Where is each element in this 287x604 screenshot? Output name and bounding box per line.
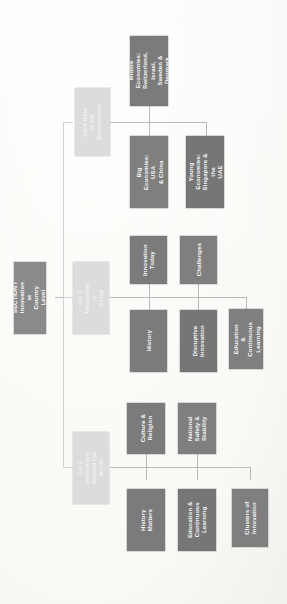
- node-disruptive-innovation[interactable]: Disruptive Innovation: [180, 310, 217, 372]
- node-history-matters[interactable]: History Matters: [127, 489, 165, 551]
- connector-spine-to-ch3: [63, 297, 73, 298]
- node-clusters-of-innovation[interactable]: Clusters of Innovation: [232, 489, 268, 547]
- connector-ch3-education: [246, 297, 247, 309]
- node-disruptive-innovation-label: Disruptive Innovation: [191, 323, 205, 360]
- node-education-continuous-learning-ch3[interactable]: Education & Continuous Learning: [229, 309, 263, 369]
- node-innovation-today-label: Innovation Today: [141, 242, 155, 279]
- connector-ch3-bus: [110, 297, 246, 298]
- node-section-i[interactable]: SECTION I Innovation at Country Level: [14, 262, 46, 334]
- node-culture-religion-label: Culture & Religion: [139, 410, 153, 448]
- node-ch4-role-of-government[interactable]: CH 4 Role of the Government: [75, 88, 110, 156]
- node-national-safety-label: National Safety & Stability: [186, 410, 208, 448]
- node-culture-religion[interactable]: Culture & Religion: [127, 403, 165, 454]
- node-ch3-label: CH 3 Innovation in China: [77, 280, 105, 316]
- node-ch2-innovation-around-the-world[interactable]: CH 2 Innovation Around the World: [73, 432, 109, 504]
- connector-ch2-history-matters: [146, 467, 147, 480]
- node-big-economies[interactable]: Big Economies: USA & China: [130, 136, 168, 208]
- node-history-matters-label: History Matters: [139, 501, 153, 539]
- connector-ch3-history: [149, 297, 150, 310]
- node-young-economies[interactable]: Young Economies: Singapore & the UAE: [186, 136, 224, 208]
- connector-ch2-bus: [110, 467, 250, 468]
- connector-ch4-middle-economies: [149, 106, 150, 122]
- node-middle-economies[interactable]: Middle Economies: Switzerland, Israel, S…: [130, 36, 168, 106]
- node-middle-economies-label: Middle Economies: Switzerland, Israel, S…: [130, 52, 168, 90]
- connector-ch4-young-economies: [206, 122, 207, 136]
- connector-spine-to-ch2: [63, 467, 73, 468]
- connector-ch2-culture-religion: [146, 454, 147, 467]
- node-ch2-label: CH 2 Innovation Around the World: [77, 450, 105, 486]
- connector-ch4-bus: [110, 122, 207, 123]
- connector-ch2-education: [197, 467, 198, 480]
- node-innovation-today[interactable]: Innovation Today: [130, 236, 167, 284]
- connector-ch3-challenges: [198, 284, 199, 297]
- node-clusters-of-innovation-label: Clusters of Innovation: [243, 500, 257, 536]
- node-section-i-label: SECTION I Innovation at Country Level: [14, 282, 46, 314]
- connector-ch2-national-safety: [197, 454, 198, 467]
- node-ch4-label: CH 4 Role of the Government: [82, 104, 103, 140]
- connector-ch3-disruptive: [198, 297, 199, 310]
- connector-spine-to-ch4: [63, 122, 73, 123]
- connector-spine-main: [63, 122, 64, 467]
- connector-ch4-big-economies: [149, 122, 150, 136]
- node-ch3-innovation-in-china[interactable]: CH 3 Innovation in China: [73, 262, 109, 334]
- node-history-label: History: [145, 323, 152, 360]
- node-young-economies-label: Young Economies: Singapore & the UAE: [187, 153, 223, 191]
- node-challenges[interactable]: Challenges: [180, 236, 217, 284]
- node-history[interactable]: History: [130, 310, 167, 372]
- node-education-ch3-label: Education & Continuous Learning: [232, 322, 261, 357]
- node-education-continuous-learning-ch2[interactable]: Education & Continuous Learning: [178, 489, 216, 551]
- node-challenges-label: Challenges: [195, 242, 202, 279]
- node-national-safety-stability[interactable]: National Safety & Stability: [178, 403, 216, 454]
- node-big-economies-label: Big Economies: USA & China: [135, 153, 164, 191]
- org-chart: SECTION I Innovation at Country Level CH…: [0, 0, 287, 604]
- connector-ch3-innovation-today: [149, 284, 150, 297]
- connector-ch2-clusters: [250, 467, 251, 480]
- node-education-ch2-label: Education & Continuous Learning: [186, 501, 208, 539]
